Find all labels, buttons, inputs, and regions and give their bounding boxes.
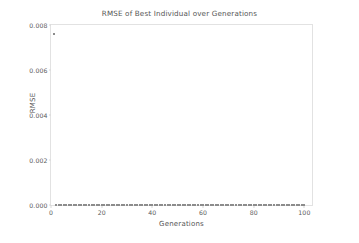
figure-canvas: RMSE of Best Individual over Generations… [0, 0, 359, 243]
plot-area: RMSE Generations 0.0000.0020.0040.0060.0… [50, 24, 313, 206]
data-point-marker [53, 33, 55, 35]
y-tick-label: 0.006 [29, 67, 47, 74]
y-tick-label: 0.002 [29, 157, 47, 164]
x-tick-label: 80 [250, 209, 258, 216]
x-tick-label: 20 [98, 209, 106, 216]
x-tick-label: 100 [298, 209, 310, 216]
data-series-layer [51, 25, 312, 205]
data-point-marker [303, 204, 305, 206]
y-tick-label: 0.008 [29, 22, 47, 29]
chart-title: RMSE of Best Individual over Generations [0, 9, 359, 18]
x-axis-label: Generations [51, 220, 312, 228]
x-tick-mark [51, 205, 52, 208]
x-tick-label: 40 [148, 209, 156, 216]
x-tick-label: 60 [199, 209, 207, 216]
x-tick-label: 0 [49, 209, 53, 216]
y-tick-label: 0.000 [29, 202, 47, 209]
y-tick-label: 0.004 [29, 112, 47, 119]
